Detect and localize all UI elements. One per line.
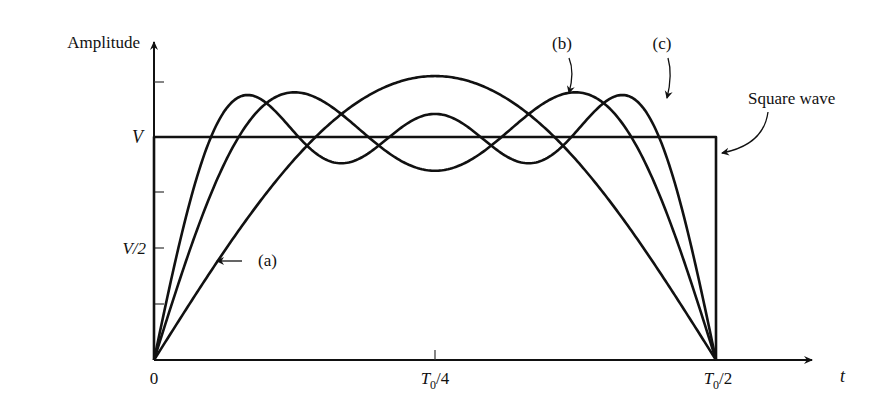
curve-c-five-harmonics (154, 95, 716, 360)
annotation-c-label: (c) (653, 34, 672, 53)
x-tick-label-half: T0/2 (704, 369, 733, 392)
y-axis-label: Amplitude (67, 33, 140, 52)
x-tick-label-0: 0 (150, 369, 159, 388)
curve-b-three-harmonics (154, 92, 716, 360)
annotation-b-label: (b) (552, 34, 572, 53)
x-tick-label-quarter: T0/4 (421, 369, 450, 392)
y-ticks (154, 82, 164, 304)
annotation-square-wave-label: Square wave (748, 89, 835, 108)
annotation-square-wave-arrow (722, 112, 768, 153)
annotation-a-label: (a) (258, 251, 277, 270)
annotation-c-arrow (667, 58, 670, 98)
curve-a-fundamental (154, 76, 716, 360)
annotation-b-arrow (569, 58, 572, 93)
y-tick-label-V: V (132, 127, 145, 147)
x-axis-label: t (840, 366, 846, 386)
y-tick-label-V-half: V/2 (122, 239, 146, 258)
fourier-square-wave-chart: Amplitude t V V/2 0 T0/4 T0/2 (a) (b) (c… (0, 0, 880, 406)
